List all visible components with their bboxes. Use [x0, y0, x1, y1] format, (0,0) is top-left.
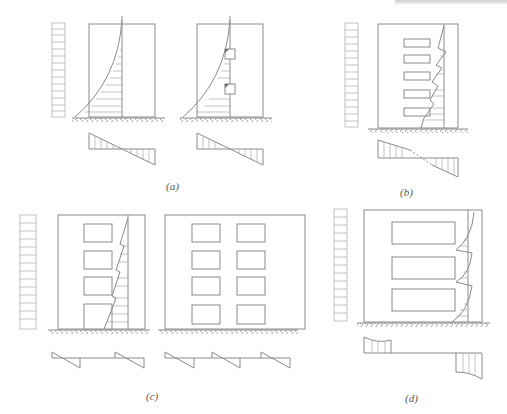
- panel-a: [52, 16, 272, 165]
- panel-label-c: (c): [146, 390, 158, 402]
- panel-label-a: (a): [166, 180, 179, 192]
- panel-b: [345, 23, 468, 177]
- base-stress-diagram-b: [378, 140, 458, 177]
- coupled-wall-double: [165, 215, 305, 329]
- base-stress-diagram-a1: [89, 133, 155, 165]
- diagram-canvas: [0, 0, 507, 414]
- lateral-load-c: [20, 215, 36, 329]
- panel-d: [334, 209, 490, 379]
- panel-label-b: (b): [400, 186, 413, 198]
- lateral-load-a: [52, 23, 65, 117]
- lateral-load-b: [345, 23, 358, 127]
- base-stress-diagram-a2: [197, 133, 263, 165]
- base-stress-diagram-d: [364, 337, 482, 379]
- base-stress-diagram-c1: [52, 352, 144, 368]
- lateral-load-d: [334, 209, 347, 321]
- panel-c: [20, 215, 305, 368]
- stress-curve: [75, 20, 122, 117]
- base-stress-diagram-c2: [165, 352, 290, 368]
- panel-label-d: (d): [405, 392, 418, 404]
